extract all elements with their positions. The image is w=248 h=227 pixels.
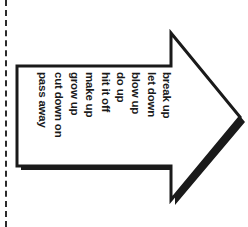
verb-item: hit it off — [99, 72, 110, 112]
verb-item: grow up — [68, 72, 79, 115]
verb-item: pass away — [36, 72, 47, 128]
verb-item: let down — [145, 72, 156, 117]
verb-item: do up — [114, 72, 125, 102]
verb-list: break up let down blow up do up hit it o… — [0, 0, 248, 227]
verb-item: break up — [160, 72, 171, 118]
figure-canvas: break up let down blow up do up hit it o… — [0, 0, 248, 227]
verb-item: cut down on — [52, 72, 63, 138]
verb-item: make up — [83, 72, 94, 117]
verb-item: blow up — [129, 72, 140, 114]
